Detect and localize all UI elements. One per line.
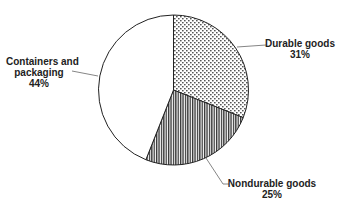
slice-label-nondurable-goods: Nondurable goods 25% xyxy=(223,178,321,200)
slice-label-durable-goods: Durable goods 31% xyxy=(262,38,337,60)
slice-label-percent: 44% xyxy=(6,78,72,89)
slice-label-name: Durable goods xyxy=(262,38,337,49)
slice-label-name-line2: packaging xyxy=(6,67,72,78)
leader-line-containers xyxy=(72,71,98,76)
slice-label-containers-and-packaging: Containers and packaging 44% xyxy=(6,56,72,89)
pie-slices xyxy=(99,15,249,165)
slice-label-name: Nondurable goods xyxy=(223,178,321,189)
slice-label-percent: 31% xyxy=(262,49,337,60)
slice-label-name-line1: Containers and xyxy=(6,56,72,67)
slice-label-percent: 25% xyxy=(223,189,321,200)
